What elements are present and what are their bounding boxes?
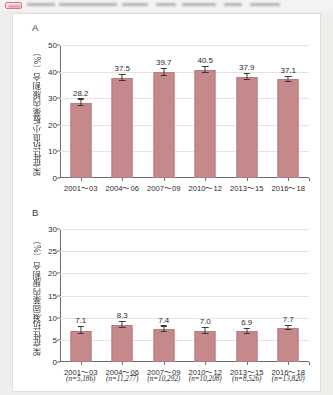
x-tick-label: 2001～03 bbox=[64, 182, 97, 193]
sample-size-label: (n=8,526) bbox=[232, 375, 261, 383]
error-bar-cap bbox=[119, 74, 126, 75]
y-tick-label: 10 bbox=[48, 147, 57, 156]
bar-group: 39.7 bbox=[143, 45, 185, 178]
bar-group: 6.9 bbox=[226, 229, 268, 362]
bar-value-label: 39.7 bbox=[156, 58, 172, 67]
bar-value-label: 7.7 bbox=[283, 315, 294, 324]
panel-b-letter: B bbox=[32, 207, 39, 218]
bar-value-label: 37.5 bbox=[114, 64, 130, 73]
header-subtitle-blurred-5 bbox=[224, 3, 242, 6]
sample-size-label: (n=10,292) bbox=[147, 375, 180, 383]
x-tick-mark bbox=[81, 362, 82, 365]
bar-value-label: 37.1 bbox=[280, 66, 296, 75]
error-bar-cap bbox=[285, 329, 292, 330]
panel-a-plot-area: 0102030405028.22001～0337.52004～0639.7200… bbox=[60, 45, 309, 178]
error-bar-cap bbox=[202, 333, 209, 334]
sample-size-label: (n=5,186) bbox=[66, 375, 95, 383]
header-subtitle-blurred-2 bbox=[122, 3, 148, 6]
bar bbox=[195, 70, 216, 178]
bar bbox=[112, 325, 133, 362]
header-badge bbox=[5, 2, 22, 10]
error-bar-cap bbox=[161, 325, 168, 326]
x-tick-mark bbox=[122, 362, 123, 365]
bar-value-label: 7.1 bbox=[75, 316, 86, 325]
x-tick-label: 2007～09 bbox=[147, 182, 180, 193]
bar-group: 8.3 bbox=[102, 229, 144, 362]
panel-b-y-axis-label: 架症性抗凝固薬内服割合（%） bbox=[34, 226, 42, 366]
bar-group: 7.4 bbox=[143, 229, 185, 362]
bar bbox=[236, 77, 257, 178]
y-tick-label: 20 bbox=[48, 120, 57, 129]
bar bbox=[153, 72, 174, 178]
x-tick-mark bbox=[288, 178, 289, 181]
error-bar-cap bbox=[244, 333, 251, 334]
error-bar-cap bbox=[244, 328, 251, 329]
bar-value-label: 28.2 bbox=[73, 89, 89, 98]
header-subtitle-blurred-1 bbox=[59, 3, 117, 6]
error-bar-cap bbox=[161, 331, 168, 332]
y-tick-label: 30 bbox=[48, 225, 57, 234]
bar-group: 40.5 bbox=[185, 45, 227, 178]
x-tick-label: 2010～12 bbox=[189, 182, 222, 193]
error-bar-cap bbox=[119, 321, 126, 322]
bar bbox=[112, 78, 133, 178]
x-tick-label: 2004～06 bbox=[106, 182, 139, 193]
bar-value-label: 7.4 bbox=[158, 316, 169, 325]
error-bar-cap bbox=[285, 81, 292, 82]
error-bar-cap bbox=[202, 66, 209, 67]
header-badge-blurred-text bbox=[8, 5, 21, 8]
bar-value-label: 8.3 bbox=[117, 311, 128, 320]
bar-group: 7.0 bbox=[185, 229, 227, 362]
header-title-blurred bbox=[27, 3, 55, 6]
y-tick-label: 0 bbox=[53, 358, 57, 367]
y-tick-label: 5 bbox=[53, 335, 57, 344]
bar bbox=[278, 328, 299, 362]
y-tick-label: 0 bbox=[53, 174, 57, 183]
bar-group: 37.1 bbox=[268, 45, 310, 178]
x-tick-mark bbox=[247, 362, 248, 365]
y-tick-label: 25 bbox=[48, 247, 57, 256]
error-bar-cap bbox=[78, 333, 85, 334]
x-tick-mark bbox=[81, 178, 82, 181]
error-bar-cap bbox=[202, 327, 209, 328]
error-bar-cap bbox=[78, 98, 85, 99]
bar-value-label: 6.9 bbox=[241, 318, 252, 327]
figure-card: A 架症性抗血小板薬内服割合（%） 0102030405028.22001～03… bbox=[12, 13, 321, 392]
header-subtitle-blurred-4 bbox=[182, 3, 216, 6]
bar bbox=[70, 103, 91, 178]
panel-b-plot-area: 0510152025307.12001～03(n=5,186)8.32004～0… bbox=[60, 229, 309, 362]
bar bbox=[278, 79, 299, 178]
x-tick-mark bbox=[288, 362, 289, 365]
x-tick-mark bbox=[122, 178, 123, 181]
bar-group: 37.9 bbox=[226, 45, 268, 178]
sample-size-label: (n=13,820) bbox=[272, 375, 305, 383]
y-tick-label: 20 bbox=[48, 269, 57, 278]
panel-b: B 架症性抗凝固薬内服割合（%） 0510152025307.12001～03(… bbox=[13, 200, 322, 393]
x-tick-mark bbox=[205, 362, 206, 365]
bar bbox=[70, 331, 91, 362]
error-bar-cap bbox=[78, 326, 85, 327]
screenshot-root: A 架症性抗血小板薬内服割合（%） 0102030405028.22001～03… bbox=[0, 0, 333, 395]
error-bar-cap bbox=[202, 72, 209, 73]
error-bar-cap bbox=[161, 75, 168, 76]
bar bbox=[153, 329, 174, 362]
bar-group: 7.1 bbox=[60, 229, 102, 362]
y-tick-label: 15 bbox=[48, 291, 57, 300]
top-header-bar bbox=[0, 0, 333, 11]
panel-a-letter: A bbox=[32, 22, 39, 33]
bar-value-label: 37.9 bbox=[239, 63, 255, 72]
sample-size-label: (n=11,277) bbox=[106, 375, 138, 383]
bar bbox=[195, 331, 216, 362]
bar-group: 28.2 bbox=[60, 45, 102, 178]
error-bar-cap bbox=[244, 79, 251, 80]
bar-group: 37.5 bbox=[102, 45, 144, 178]
error-bar-cap bbox=[119, 327, 126, 328]
header-subtitle-blurred-6 bbox=[250, 3, 280, 6]
error-bar-cap bbox=[285, 325, 292, 326]
y-tick-label: 30 bbox=[48, 94, 57, 103]
x-tick-mark bbox=[205, 178, 206, 181]
error-bar-cap bbox=[161, 68, 168, 69]
x-tick-mark bbox=[164, 362, 165, 365]
sample-size-label: (n=10,208) bbox=[189, 375, 222, 383]
error-bar-cap bbox=[78, 105, 85, 106]
